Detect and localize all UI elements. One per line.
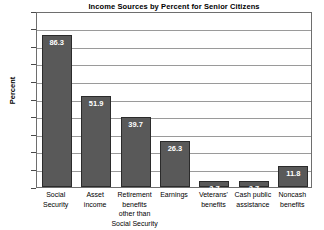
bar: 26.3 (160, 141, 190, 187)
gridline (37, 101, 311, 102)
plot-area: 86.351.939.726.33.73.711.8 (36, 12, 312, 188)
bar: 39.7 (121, 117, 151, 187)
x-category-line: benefits (111, 200, 158, 210)
x-category-line: other than (111, 209, 158, 219)
gridline (37, 136, 311, 137)
x-category-line: Social Security (111, 219, 158, 229)
bar-value-label: 26.3 (161, 144, 189, 153)
bar-value-label: 11.8 (279, 169, 307, 178)
bar: 86.3 (42, 35, 72, 187)
x-category-line: Noncash (269, 190, 316, 200)
bar: 3.7 (199, 181, 229, 188)
gridline (37, 118, 311, 119)
bar-value-label: 51.9 (82, 99, 110, 108)
bar-chart: Income Sources by Percent for Senior Cit… (0, 0, 324, 230)
gridline (37, 83, 311, 84)
x-category-label: Noncashbenefits (269, 190, 316, 209)
y-axis-label: Percent (8, 56, 17, 126)
gridline (37, 65, 311, 66)
bar: 51.9 (81, 96, 111, 187)
bar: 3.7 (239, 181, 269, 188)
gridline (37, 48, 311, 49)
bar-value-label: 39.7 (122, 120, 150, 129)
bar-value-label: 86.3 (43, 38, 71, 47)
bar: 11.8 (278, 166, 308, 187)
x-category-line: benefits (269, 200, 316, 210)
gridline (37, 30, 311, 31)
chart-title: Income Sources by Percent for Senior Cit… (36, 2, 312, 11)
